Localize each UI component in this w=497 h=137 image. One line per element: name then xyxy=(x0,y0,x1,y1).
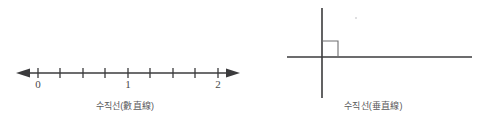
figure-number-line: 0 1 2 수직선(數直線) xyxy=(0,0,250,137)
figure-perpendicular-lines: 수직선(垂直線) xyxy=(250,0,497,137)
number-line-diagram: 0 1 2 xyxy=(0,0,250,137)
axis-arrowhead-left xyxy=(16,69,30,78)
caption-perpendicular-lines: 수직선(垂直線) xyxy=(250,99,497,112)
right-angle-marker xyxy=(322,41,338,57)
axis-tick-label-2: 2 xyxy=(215,78,221,90)
perpendicular-lines-diagram xyxy=(250,0,497,137)
speck-artifact xyxy=(355,17,357,19)
caption-number-line: 수직선(數直線) xyxy=(0,99,250,112)
axis-tick-label-0: 0 xyxy=(35,78,41,90)
axis-arrowhead-right xyxy=(226,69,240,78)
figure-sheet: 0 1 2 수직선(數直線) 수직선(垂直線) xyxy=(0,0,497,137)
axis-tick-label-1: 1 xyxy=(125,78,131,90)
